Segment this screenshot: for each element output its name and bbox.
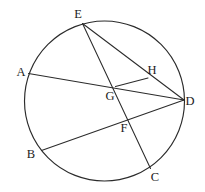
chord-e-d — [83, 24, 185, 101]
vertex-label-b: B — [27, 147, 35, 161]
vertex-labels-layer: ABCDEFGH — [16, 7, 194, 184]
vertex-label-h: H — [147, 63, 156, 77]
vertex-label-a: A — [16, 65, 25, 79]
vertex-label-c: C — [151, 170, 159, 184]
vertex-label-d: D — [185, 94, 194, 108]
circle-geometry-diagram: ABCDEFGH — [0, 0, 205, 192]
vertex-label-e: E — [74, 7, 82, 21]
vertex-label-f: F — [121, 121, 128, 135]
geometry-canvas: ABCDEFGH — [0, 0, 205, 192]
chord-b-d — [42, 100, 185, 151]
segment-g-h — [116, 78, 149, 87]
vertex-label-g: G — [105, 89, 114, 103]
chord-e-c — [83, 24, 151, 169]
